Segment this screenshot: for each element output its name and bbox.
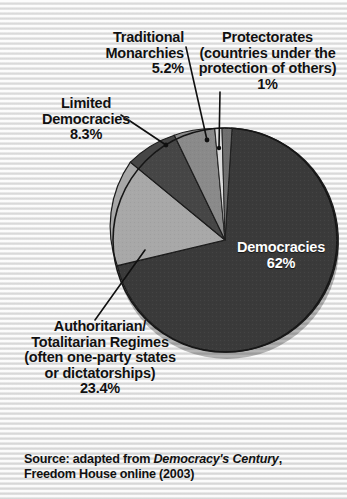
slice-label-democracies: Democracies 62% xyxy=(226,240,336,271)
slice-label-authoritarian: Authoritarian/ Totalitarian Regimes (oft… xyxy=(2,319,198,397)
source-line-1: Source: adapted from Democracy's Century… xyxy=(24,452,334,467)
arrowhead-protectorates xyxy=(217,146,221,150)
slice-label-limited-democracies: Limited Democracies 8.3% xyxy=(22,96,150,143)
arrowhead-limited-democracies xyxy=(164,143,169,148)
slice-label-protectorates: Protectorates (countries under the prote… xyxy=(190,30,345,92)
source-line-2: Freedom House online (2003) xyxy=(24,467,334,482)
source-suffix: , xyxy=(279,452,282,466)
slice-label-traditional-monarchies: Traditional Monarchies 5.2% xyxy=(70,30,184,77)
pie-chart-figure: Traditional Monarchies 5.2% Protectorate… xyxy=(0,0,347,499)
arrowhead-traditional-monarchies xyxy=(205,138,210,143)
source-publication-title: Democracy's Century xyxy=(153,452,278,466)
leader-line-protectorates xyxy=(219,92,220,148)
source-prefix: Source: adapted from xyxy=(24,452,153,466)
source-note: Source: adapted from Democracy's Century… xyxy=(24,452,334,482)
